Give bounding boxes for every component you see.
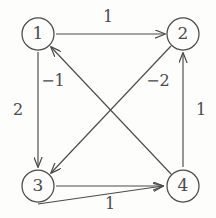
edge-weight-3-to-4: 1: [93, 196, 127, 214]
edge-weight-1-to-2: 1: [91, 9, 125, 27]
edge-4-to-1: [51, 47, 171, 174]
node-label-1: 1: [26, 25, 50, 43]
edge-weight-2-to-3: −2: [141, 73, 175, 91]
edge-weight-1-to-3: 2: [1, 102, 35, 120]
edge-weight-4-to-1: −1: [36, 73, 70, 91]
edge-weight-4-to-2: 1: [184, 102, 216, 120]
node-label-2: 2: [171, 25, 195, 43]
node-label-3: 3: [26, 177, 50, 195]
edge-2-to-3: [51, 46, 171, 173]
node-label-4: 4: [171, 177, 195, 195]
graph-diagram: 1 2 3 4 1 2 −1 −2 1 1: [0, 0, 216, 218]
